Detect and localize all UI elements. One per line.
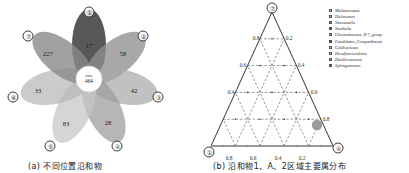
legend-label: Sphingomonas	[335, 63, 360, 68]
petal-index-7: ⑦	[23, 31, 34, 42]
ternary-vertex-bottom-right: ④	[333, 143, 344, 154]
petal-index-1: ①	[84, 7, 95, 18]
legend-swatch-icon	[329, 33, 332, 36]
legend-swatch-icon	[329, 46, 332, 49]
legend-label: Halomonas	[335, 14, 355, 19]
legend-swatch-icon	[329, 58, 332, 61]
petal-value-1: 17	[86, 42, 93, 49]
tick-left-0-6: 0.6	[240, 62, 247, 68]
tick-right-0-2: 0.2	[286, 35, 293, 41]
petal-index-4: ④	[112, 141, 123, 152]
legend-label: Candidatus_Competibacter	[335, 39, 383, 44]
legend-label: Dechloromonas	[335, 57, 362, 62]
ternary-data-point	[312, 120, 322, 130]
tick-right-0-4: 0.4	[298, 62, 305, 68]
legend-swatch-icon	[329, 9, 332, 12]
petal-index-3: ③	[153, 92, 164, 103]
panel-a-flower-venn: 17 58 42 28 83 33 227 core 464 ① ② ③ ④ ⑤…	[0, 0, 205, 173]
legend-label: Desulfomicrobium	[335, 51, 367, 56]
legend-swatch-icon	[329, 40, 332, 43]
legend-label: Smithella	[335, 26, 351, 31]
legend-swatch-icon	[329, 15, 332, 18]
petal-value-7: 227	[43, 50, 53, 57]
panel-b-ternary: ⑦ ① ④ 0.8 0.6 0.4 0.2 0.4 0.6 0.8 0.8 0.…	[205, 0, 409, 173]
core-count: 464	[85, 79, 93, 84]
ternary-vertex-bottom-left: ①	[204, 147, 215, 158]
legend-label: Shewanella	[335, 20, 355, 25]
tick-left-0-4: 0.4	[228, 89, 235, 95]
petal-value-5: 83	[63, 120, 70, 127]
petal-value-3: 42	[131, 87, 138, 94]
legend-label: Caldisericum	[335, 45, 358, 50]
ternary-legend: Methanosaeta Halomonas Shewanella Smithe…	[329, 7, 409, 69]
panel-b-caption: (b) 沿和物1、A、2区域主要属分布	[213, 160, 346, 171]
petal-value-2: 58	[120, 50, 127, 57]
petal-value-4: 28	[105, 119, 112, 126]
tick-right-0-8: 0.8	[323, 116, 330, 122]
tick-right-0-6: 0.6	[311, 89, 318, 95]
legend-label: Chromatiaceae_R-7_group	[335, 32, 382, 37]
flower-venn-svg	[0, 0, 205, 173]
legend-swatch-icon	[329, 27, 332, 30]
legend-swatch-icon	[329, 64, 332, 67]
core-otu-label: core 464	[85, 74, 93, 84]
legend-label: Methanosaeta	[335, 8, 359, 13]
tick-left-0-8: 0.8	[253, 35, 260, 41]
petal-index-6: ⑥	[8, 92, 19, 103]
scientific-figure: 17 58 42 28 83 33 227 core 464 ① ② ③ ④ ⑤…	[0, 0, 409, 173]
petal-index-5: ⑤	[45, 141, 56, 152]
legend-swatch-icon	[329, 21, 332, 24]
legend-swatch-icon	[329, 52, 332, 55]
petal-index-2: ②	[138, 31, 149, 42]
panel-a-caption: (a) 不同位置沿和物	[28, 160, 102, 171]
ternary-vertex-top: ⑦	[267, 3, 278, 14]
petal-value-6: 33	[35, 87, 42, 94]
legend-item: Sphingomonas	[329, 63, 409, 69]
